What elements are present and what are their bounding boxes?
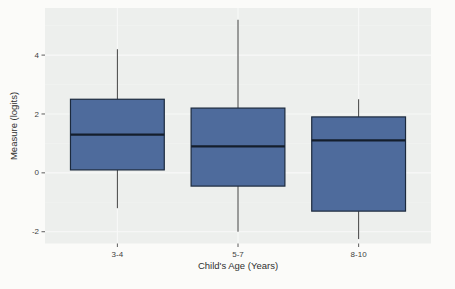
y-axis-title: Measure (logits) xyxy=(8,92,19,160)
y-tick-label: -2 xyxy=(32,227,40,236)
x-tick-label: 5-7 xyxy=(232,250,244,259)
y-tick-label: 4 xyxy=(35,51,40,60)
plot-svg: -20243-45-78-10 Measure (logits) Child's… xyxy=(0,0,455,289)
plot-content: -20243-45-78-10 xyxy=(32,8,431,259)
box xyxy=(312,117,406,211)
x-tick-label: 8-10 xyxy=(351,250,368,259)
y-tick-label: 0 xyxy=(35,168,40,177)
x-axis-title: Child's Age (Years) xyxy=(198,260,278,271)
boxplot-figure: -20243-45-78-10 Measure (logits) Child's… xyxy=(0,0,455,289)
y-tick-label: 2 xyxy=(35,110,40,119)
x-tick-label: 3-4 xyxy=(112,250,124,259)
